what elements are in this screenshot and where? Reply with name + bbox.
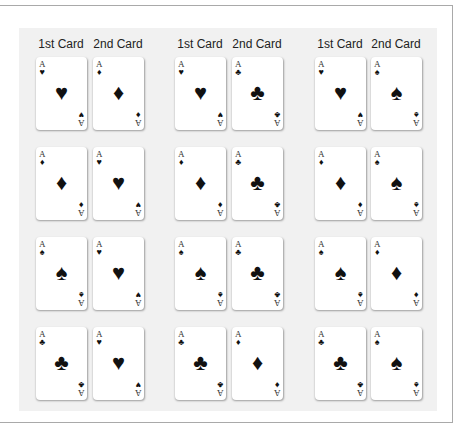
card-corner-index: A♣ [274,290,281,307]
card-ace-of-clubs: A♣♣A♣ [315,327,366,400]
heart-icon: ♥ [135,290,140,299]
card-ace-of-hearts: A♥♥A♥ [93,327,144,400]
header-2nd-card: 2nd Card [227,37,287,51]
heart-icon: ♥ [78,110,83,119]
club-icon: ♣ [232,171,283,193]
heart-icon: ♥ [40,68,45,77]
card-corner-index: A♦ [357,200,364,217]
spade-icon: ♠ [357,290,362,299]
spade-icon: ♠ [375,158,380,167]
card-corner-index: A♣ [78,380,85,397]
card-corner-index: A♥ [217,110,224,127]
heart-icon: ♥ [97,338,102,347]
heart-icon: ♥ [36,81,87,103]
header-1st-card: 1st Card [310,37,370,51]
card-corner-index: A♥ [96,330,103,347]
club-icon: ♣ [232,261,283,283]
diamond-icon: ♦ [175,171,226,193]
club-icon: ♣ [178,338,184,347]
header-1st-card: 1st Card [31,37,91,51]
card-ace-of-diamonds: A♦♦A♦ [175,147,226,220]
heart-icon: ♥ [93,351,144,373]
card-corner-index: A♠ [357,290,364,307]
card-ace-of-spades: A♠♠A♠ [36,237,87,310]
club-icon: ♣ [235,248,241,257]
card-corner-index: A♣ [235,150,242,167]
diamond-icon: ♦ [236,338,241,347]
card-corner-index: A♥ [318,60,325,77]
club-icon: ♣ [217,380,223,389]
spade-icon: ♠ [78,290,83,299]
club-icon: ♣ [274,290,280,299]
card-corner-index: A♥ [135,380,142,397]
card-ace-of-diamonds: A♦♦A♦ [93,57,144,130]
card-corner-index: A♠ [178,240,185,257]
heart-icon: ♥ [315,81,366,103]
card-corner-index: A♠ [413,200,420,217]
header-2nd-card: 2nd Card [88,37,148,51]
heart-icon: ♥ [93,261,144,283]
spade-icon: ♠ [217,290,222,299]
spade-icon: ♠ [375,68,380,77]
card-ace-of-spades: A♠♠A♠ [315,237,366,310]
club-icon: ♣ [232,81,283,103]
card-ace-of-hearts: A♥♥A♥ [315,57,366,130]
heart-icon: ♥ [93,171,144,193]
card-ace-of-clubs: A♣♣A♣ [232,57,283,130]
spade-icon: ♠ [413,110,418,119]
header-1st-card: 1st Card [170,37,230,51]
card-ace-of-diamonds: A♦♦A♦ [315,147,366,220]
spade-icon: ♠ [413,380,418,389]
header-2nd-card: 2nd Card [366,37,426,51]
card-corner-index: A♥ [357,110,364,127]
club-icon: ♣ [39,338,45,347]
card-ace-of-hearts: A♥♥A♥ [36,57,87,130]
spade-icon: ♠ [40,248,45,257]
card-corner-index: A♣ [217,380,224,397]
spade-icon: ♠ [179,248,184,257]
card-corner-index: A♠ [39,240,46,257]
club-icon: ♣ [315,351,366,373]
heart-icon: ♥ [97,248,102,257]
club-icon: ♣ [357,380,363,389]
diamond-icon: ♦ [371,261,422,283]
spade-icon: ♠ [175,261,226,283]
heart-icon: ♥ [175,81,226,103]
card-ace-of-clubs: A♣♣A♣ [232,237,283,310]
card-corner-index: A♥ [135,200,142,217]
card-corner-index: A♠ [318,240,325,257]
card-corner-index: A♥ [135,290,142,307]
card-ace-of-spades: A♠♠A♠ [371,57,422,130]
card-corner-index: A♦ [178,150,185,167]
diamond-icon: ♦ [357,200,362,209]
card-ace-of-hearts: A♥♥A♥ [93,147,144,220]
heart-icon: ♥ [135,200,140,209]
card-ace-of-hearts: A♥♥A♥ [93,237,144,310]
card-corner-index: A♣ [274,110,281,127]
diamond-icon: ♦ [274,380,279,389]
card-ace-of-diamonds: A♦♦A♦ [371,237,422,310]
club-icon: ♣ [235,68,241,77]
spade-icon: ♠ [371,171,422,193]
spade-icon: ♠ [319,248,324,257]
heart-icon: ♥ [97,158,102,167]
card-corner-index: A♣ [178,330,185,347]
card-ace-of-spades: A♠♠A♠ [371,327,422,400]
card-corner-index: A♥ [39,60,46,77]
card-corner-index: A♥ [96,150,103,167]
diamond-icon: ♦ [179,158,184,167]
card-corner-index: A♦ [96,60,103,77]
diamond-icon: ♦ [36,171,87,193]
card-corner-index: A♣ [318,330,325,347]
card-corner-index: A♠ [413,110,420,127]
diamond-icon: ♦ [135,110,140,119]
card-corner-index: A♦ [39,150,46,167]
card-corner-index: A♠ [413,380,420,397]
card-corner-index: A♣ [357,380,364,397]
heart-icon: ♥ [179,68,184,77]
spade-icon: ♠ [371,81,422,103]
card-ace-of-diamonds: A♦♦A♦ [36,147,87,220]
card-corner-index: A♦ [235,330,242,347]
card-corner-index: A♥ [96,240,103,257]
card-ace-of-hearts: A♥♥A♥ [175,57,226,130]
